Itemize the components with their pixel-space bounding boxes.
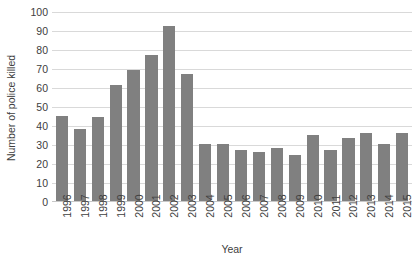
bar-slot bbox=[340, 12, 358, 201]
bar-slot bbox=[214, 12, 232, 201]
y-axis-tick-label: 90 bbox=[18, 26, 48, 37]
x-tick-slot: 2002 bbox=[160, 204, 178, 240]
y-axis-tick-label: 80 bbox=[18, 45, 48, 56]
y-axis-tick-label: 30 bbox=[18, 140, 48, 151]
bar-slot bbox=[286, 12, 304, 201]
bar[interactable] bbox=[56, 116, 68, 202]
bar[interactable] bbox=[360, 133, 372, 201]
x-tick-slot: 1998 bbox=[89, 204, 107, 240]
bar[interactable] bbox=[181, 74, 193, 201]
x-axis-title: Year bbox=[52, 243, 412, 255]
y-axis-tick-label: 60 bbox=[18, 83, 48, 94]
x-axis-tick-labels: 1996199719981999200020012002200320042005… bbox=[52, 204, 412, 240]
plot-area bbox=[52, 12, 412, 202]
bar-slot bbox=[71, 12, 89, 201]
bar[interactable] bbox=[324, 150, 336, 201]
y-axis-tick-label: 70 bbox=[18, 64, 48, 75]
bar-slot bbox=[393, 12, 411, 201]
bar-slot bbox=[322, 12, 340, 201]
bar[interactable] bbox=[378, 144, 390, 201]
bar-slot bbox=[250, 12, 268, 201]
bar[interactable] bbox=[307, 135, 319, 202]
bar-slot bbox=[268, 12, 286, 201]
bar[interactable] bbox=[217, 144, 229, 201]
bar-slot bbox=[160, 12, 178, 201]
bar[interactable] bbox=[271, 148, 283, 201]
x-tick-slot: 2000 bbox=[125, 204, 143, 240]
x-tick-slot: 2001 bbox=[143, 204, 161, 240]
bar[interactable] bbox=[199, 144, 211, 201]
x-tick-slot: 2006 bbox=[232, 204, 250, 240]
x-tick-slot: 1997 bbox=[71, 204, 89, 240]
bar[interactable] bbox=[74, 129, 86, 201]
y-axis-tick-label: 50 bbox=[18, 102, 48, 113]
bar-slot bbox=[304, 12, 322, 201]
x-tick-slot: 2007 bbox=[250, 204, 268, 240]
bar-slot bbox=[143, 12, 161, 201]
x-tick-slot: 2015 bbox=[393, 204, 411, 240]
bar[interactable] bbox=[396, 133, 408, 201]
bars-container bbox=[52, 12, 412, 201]
bar-slot bbox=[53, 12, 71, 201]
bar-slot bbox=[375, 12, 393, 201]
y-axis-tick-label: 10 bbox=[18, 178, 48, 189]
x-tick-slot: 1999 bbox=[107, 204, 125, 240]
bar-slot bbox=[357, 12, 375, 201]
x-tick-slot: 2014 bbox=[375, 204, 393, 240]
x-tick-slot: 1996 bbox=[53, 204, 71, 240]
x-tick-slot: 2005 bbox=[214, 204, 232, 240]
bar-chart: Number of police killed 0102030405060708… bbox=[0, 0, 418, 264]
bar-slot bbox=[232, 12, 250, 201]
bar[interactable] bbox=[110, 85, 122, 201]
bar-slot bbox=[178, 12, 196, 201]
y-axis-tick-labels: 0102030405060708090100 bbox=[18, 12, 48, 202]
x-tick-slot: 2009 bbox=[286, 204, 304, 240]
bar[interactable] bbox=[163, 26, 175, 201]
y-axis-tick-label: 20 bbox=[18, 159, 48, 170]
x-tick-slot: 2011 bbox=[322, 204, 340, 240]
x-tick-slot: 2012 bbox=[340, 204, 358, 240]
x-tick-slot: 2003 bbox=[178, 204, 196, 240]
y-axis-title-label: Number of police killed bbox=[5, 54, 17, 160]
y-axis-tick-label: 0 bbox=[18, 197, 48, 208]
bar[interactable] bbox=[92, 117, 104, 201]
bar-slot bbox=[89, 12, 107, 201]
y-axis-tick-label: 40 bbox=[18, 121, 48, 132]
bar-slot bbox=[125, 12, 143, 201]
y-axis-tick-label: 100 bbox=[18, 7, 48, 18]
x-tick-slot: 2013 bbox=[357, 204, 375, 240]
bar[interactable] bbox=[235, 150, 247, 201]
bar[interactable] bbox=[342, 138, 354, 201]
x-axis-tick-label: 2015 bbox=[402, 194, 413, 217]
bar[interactable] bbox=[145, 55, 157, 201]
bar-slot bbox=[107, 12, 125, 201]
bar-slot bbox=[196, 12, 214, 201]
bar[interactable] bbox=[127, 70, 139, 201]
x-tick-slot: 2010 bbox=[304, 204, 322, 240]
x-tick-slot: 2004 bbox=[196, 204, 214, 240]
x-tick-slot: 2008 bbox=[268, 204, 286, 240]
